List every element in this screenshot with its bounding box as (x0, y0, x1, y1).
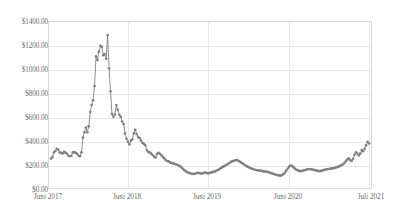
data-point (100, 46, 103, 49)
data-point (98, 50, 101, 53)
data-point (82, 136, 85, 139)
data-point (93, 85, 96, 88)
series-markers (50, 34, 371, 177)
data-point (359, 152, 362, 155)
data-point (362, 150, 365, 153)
data-point (70, 154, 73, 157)
data-point (111, 113, 114, 116)
x-tick-label-1: Juni 2018 (113, 193, 141, 202)
data-point (103, 53, 106, 56)
data-point (363, 148, 366, 151)
x-tick-label-2: Juni 2019 (193, 193, 221, 202)
y-tick-label-0: $1400.00 (4, 18, 48, 26)
data-point (105, 57, 108, 60)
data-point (87, 125, 90, 128)
data-point (86, 131, 89, 134)
data-point (132, 132, 135, 135)
data-point (95, 55, 98, 58)
data-point (108, 67, 111, 70)
data-point (365, 144, 368, 147)
data-point (106, 34, 109, 37)
data-point (92, 99, 95, 102)
data-point (84, 126, 87, 129)
data-point (80, 151, 83, 154)
data-point (122, 123, 125, 126)
data-point (109, 90, 112, 93)
data-point (96, 59, 99, 62)
y-tick-label-4: $600.00 (4, 114, 48, 122)
data-point (144, 144, 147, 147)
data-point (116, 108, 119, 111)
price-line-series (49, 22, 371, 188)
data-point (127, 140, 130, 143)
data-point (121, 120, 124, 123)
data-point (83, 131, 86, 134)
y-tick-label-3: $800.00 (4, 90, 48, 98)
data-point (368, 142, 371, 145)
x-tick-label-3: Juni 2020 (274, 193, 302, 202)
data-point (112, 116, 115, 119)
x-tick-label-0: Juni 2017 (34, 193, 62, 202)
data-point (131, 138, 134, 141)
data-point (353, 153, 356, 156)
data-point (140, 139, 143, 142)
x-tick-label-4: Juli 2021 (358, 193, 385, 202)
data-point (134, 129, 137, 132)
data-point (125, 137, 128, 140)
y-tick-label-6: $200.00 (4, 162, 48, 170)
data-point (128, 143, 131, 146)
data-point (51, 156, 54, 159)
data-point (352, 157, 355, 160)
data-point (57, 148, 60, 151)
data-point (90, 104, 93, 107)
y-tick-label-2: $1000.00 (4, 66, 48, 74)
plot-area (48, 21, 372, 189)
data-point (124, 132, 127, 135)
data-point (138, 137, 141, 140)
data-point (119, 116, 122, 119)
data-point (114, 113, 117, 116)
y-tick-label-5: $400.00 (4, 138, 48, 146)
data-point (115, 104, 118, 107)
data-point (135, 133, 138, 136)
data-point (89, 111, 92, 114)
data-point (79, 155, 82, 158)
chart-container: $1400.00 $1200.00 $1000.00 $800.00 $600.… (0, 0, 402, 223)
data-point (154, 156, 157, 159)
y-tick-label-1: $1200.00 (4, 42, 48, 50)
series-polyline (51, 35, 369, 176)
